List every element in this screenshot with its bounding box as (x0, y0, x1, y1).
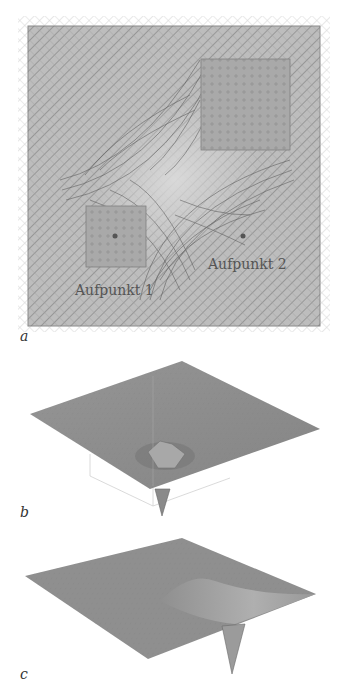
panel-b-surface: b (0, 336, 337, 516)
aufpunkt-2-marker (241, 234, 246, 239)
grid-field-plot: Aufpunkt 1 Aufpunkt 2 (0, 0, 337, 336)
aufpunkt-1-label: Aufpunkt 1 (74, 282, 154, 298)
surface-plot-b (0, 336, 337, 516)
aufpunkt-1-marker (113, 234, 118, 239)
region-square-2-grid (201, 59, 290, 150)
panel-a-grid-field: Aufpunkt 1 Aufpunkt 2 a (0, 0, 337, 336)
funnel-spike-c (222, 624, 245, 674)
panel-c-surface: c (0, 516, 337, 688)
surface-plot-c (0, 516, 337, 688)
aufpunkt-2-label: Aufpunkt 2 (207, 256, 287, 272)
panel-label-c: c (20, 666, 28, 682)
funnel-spike (155, 489, 170, 516)
